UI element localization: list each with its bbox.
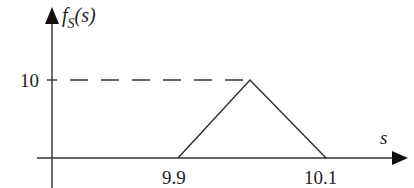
pdf-plot: 10 9.9 10.1 s fS(s) [0, 0, 414, 188]
y-axis-arrow-icon [45, 7, 59, 24]
y-axis-label: fS(s) [62, 4, 96, 31]
x-tick-label-left: 9.9 [162, 167, 186, 188]
y-tick-label: 10 [20, 70, 39, 91]
y-axis-label-sub: S [68, 16, 75, 31]
x-axis-label: s [380, 127, 387, 148]
triangle-density-curve [178, 80, 326, 158]
y-axis-label-arg: (s) [75, 4, 96, 27]
x-tick-label-right: 10.1 [304, 167, 337, 188]
x-axis-arrow-icon [392, 151, 408, 165]
